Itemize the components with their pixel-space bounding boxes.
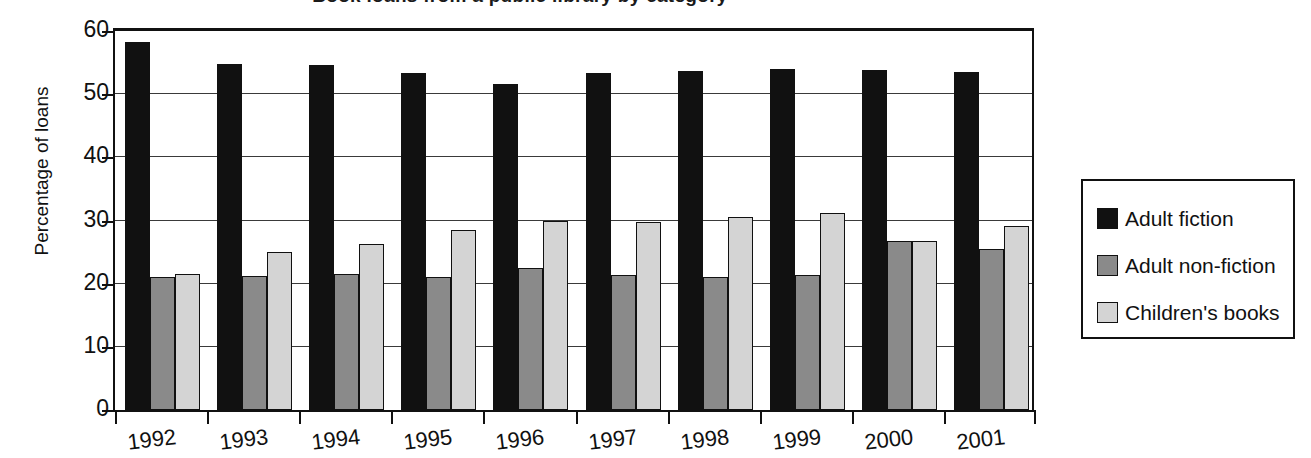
bar-group [954,31,1029,410]
x-tick-mark [1034,410,1036,424]
x-axis-label: 1994 [310,424,362,456]
bar[interactable] [426,277,451,410]
bar[interactable] [795,275,820,410]
bar[interactable] [912,241,937,410]
bar[interactable] [1004,226,1029,410]
bar-group [493,31,568,410]
bar-group [862,31,937,410]
x-axis-label: 1992 [126,424,178,456]
bar[interactable] [887,241,912,410]
x-tick-mark [207,410,209,424]
y-tick-label: 40 [83,144,109,166]
light-gray-square-icon [1097,302,1118,323]
bar[interactable] [334,274,359,410]
x-tick-mark [576,410,578,424]
bar[interactable] [678,71,703,410]
bar[interactable] [728,217,753,410]
bar[interactable] [611,275,636,410]
bar[interactable] [267,252,292,410]
x-axis-label: 1999 [771,424,823,456]
bar-group [586,31,661,410]
bar[interactable] [862,70,887,410]
legend-item-label: Adult fiction [1125,207,1234,231]
x-axis-label: 1996 [494,424,546,456]
bar[interactable] [636,222,661,410]
y-tick-label: 0 [96,397,109,419]
y-axis-title: Percentage of loans [31,41,53,301]
bar[interactable] [309,65,334,410]
bar[interactable] [125,42,150,410]
bar[interactable] [770,69,795,410]
x-tick-mark [483,410,485,424]
x-tick-mark [299,410,301,424]
bar[interactable] [979,249,1004,410]
y-tick-label: 50 [83,81,109,103]
x-axis-label: 1997 [587,424,639,456]
x-tick-mark [852,410,854,424]
bar[interactable] [451,230,476,410]
bar-group [678,31,753,410]
legend-item[interactable]: Adult fiction [1097,195,1293,242]
bar[interactable] [359,244,384,410]
bar[interactable] [954,72,979,410]
bar[interactable] [543,221,568,411]
x-tick-mark [668,410,670,424]
bar[interactable] [586,73,611,410]
bar[interactable] [175,274,200,410]
legend-item-label: Children's books [1125,301,1280,325]
bar-group [401,31,476,410]
x-axis-label: 1998 [679,424,731,456]
gray-square-icon [1097,255,1118,276]
legend-item[interactable]: Children's books [1097,289,1293,336]
y-tick-label: 20 [83,271,109,293]
y-tick-label: 30 [83,208,109,230]
legend-item-label: Adult non-fiction [1125,254,1276,278]
x-axis-label: 2000 [863,424,915,456]
y-tick-label: 10 [83,334,109,356]
bar[interactable] [217,64,242,410]
bar-group [217,31,292,410]
bar[interactable] [401,73,426,410]
bar-group [770,31,845,410]
legend-item[interactable]: Adult non-fiction [1097,242,1293,289]
x-tick-mark [391,410,393,424]
x-axis-label: 2001 [955,424,1007,456]
x-axis-label: 1993 [218,424,270,456]
bar[interactable] [242,276,267,410]
bar[interactable] [493,84,518,410]
y-tick-label: 60 [83,18,109,40]
bar[interactable] [703,277,728,410]
bar-group [125,31,200,410]
chart-legend: Adult fictionAdult non-fictionChildren's… [1081,179,1295,339]
plot-area: 0102030405060199219931994199519961997199… [113,28,1034,412]
x-tick-mark [115,410,117,424]
x-axis-label: 1995 [402,424,454,456]
bar[interactable] [150,277,175,410]
x-tick-mark [760,410,762,424]
bar[interactable] [820,213,845,410]
black-square-icon [1097,208,1118,229]
bar-group [309,31,384,410]
bar[interactable] [518,268,543,410]
x-tick-mark [944,410,946,424]
